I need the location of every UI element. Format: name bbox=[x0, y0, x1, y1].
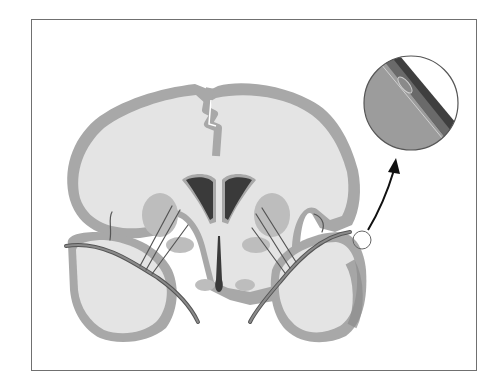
pointer-arrow bbox=[368, 158, 400, 230]
brain-illustration bbox=[0, 0, 499, 391]
temporal-lobe-left bbox=[68, 232, 177, 342]
highlight-circle bbox=[353, 231, 371, 249]
magnified-inset bbox=[360, 50, 470, 160]
